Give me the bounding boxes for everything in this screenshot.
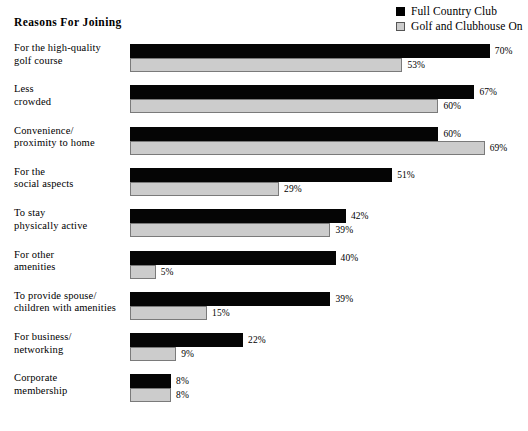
bar-light[interactable]: [130, 347, 176, 361]
legend-swatch-dark-icon: [396, 7, 405, 16]
bar-light[interactable]: [130, 99, 438, 113]
bar-value-label: 22%: [248, 334, 266, 346]
bar-light[interactable]: [130, 223, 330, 237]
bar-value-label: 8%: [176, 389, 189, 401]
category-label-line: children with amenities: [14, 302, 130, 315]
legend-swatch-light-icon: [396, 22, 405, 31]
bar-group: For thesocial aspects51%29%: [0, 164, 528, 198]
category-label: For thesocial aspects: [14, 166, 130, 191]
bar-value-label: 5%: [161, 266, 174, 278]
bar-dark[interactable]: [130, 374, 171, 388]
legend-item-full-country-club: Full Country Club: [396, 4, 528, 19]
category-label-line: proximity to home: [14, 137, 130, 150]
category-label: Corporatemembership: [14, 372, 130, 397]
category-label-line: For the: [14, 166, 130, 179]
bar-value-label: 15%: [212, 307, 230, 319]
category-label: Convenience/proximity to home: [14, 125, 130, 150]
category-label-line: Convenience/: [14, 125, 130, 138]
bar-value-label: 39%: [335, 224, 353, 236]
bar-value-label: 70%: [495, 45, 513, 57]
chart-legend: Full Country Club Golf and Clubhouse On: [396, 4, 528, 34]
category-label-line: networking: [14, 344, 130, 357]
bar-dark[interactable]: [130, 44, 490, 58]
category-label-line: For business/: [14, 331, 130, 344]
bar-value-label: 8%: [176, 375, 189, 387]
category-label-line: Less: [14, 83, 130, 96]
bar-group: To provide spouse/children with amenitie…: [0, 288, 528, 322]
bar-light[interactable]: [130, 388, 171, 402]
bar-value-label: 67%: [479, 86, 497, 98]
category-label-line: To stay: [14, 207, 130, 220]
category-label-line: To provide spouse/: [14, 290, 130, 303]
bar-group: To stayphysically active42%39%: [0, 205, 528, 239]
legend-label: Full Country Club: [411, 5, 497, 18]
bar-group: For otheramenities40%5%: [0, 247, 528, 281]
category-label-line: For the high-quality: [14, 42, 130, 55]
bar-group: For the high-qualitygolf course70%53%: [0, 40, 528, 74]
bar-dark[interactable]: [130, 127, 438, 141]
category-label: To stayphysically active: [14, 207, 130, 232]
category-label-line: social aspects: [14, 178, 130, 191]
bar-light[interactable]: [130, 58, 402, 72]
bar-dark[interactable]: [130, 168, 392, 182]
category-label-line: Corporate: [14, 372, 130, 385]
bar-light[interactable]: [130, 265, 156, 279]
bar-light[interactable]: [130, 306, 207, 320]
category-label: To provide spouse/children with amenitie…: [14, 290, 130, 315]
bar-value-label: 9%: [181, 348, 194, 360]
legend-label: Golf and Clubhouse On: [411, 20, 523, 33]
bar-value-label: 39%: [335, 293, 353, 305]
bar-value-label: 60%: [443, 128, 461, 140]
category-label: For otheramenities: [14, 249, 130, 274]
category-label: Lesscrowded: [14, 83, 130, 108]
bar-dark[interactable]: [130, 292, 330, 306]
category-label-line: amenities: [14, 261, 130, 274]
bar-value-label: 40%: [341, 252, 359, 264]
bar-value-label: 51%: [397, 169, 415, 181]
chart-title: Reasons For Joining: [14, 16, 122, 28]
plot-area: For the high-qualitygolf course70%53%Les…: [0, 40, 528, 431]
bar-light[interactable]: [130, 141, 485, 155]
bar-light[interactable]: [130, 182, 279, 196]
bar-group: Corporatemembership8%8%: [0, 370, 528, 404]
category-label: For the high-qualitygolf course: [14, 42, 130, 67]
bar-value-label: 60%: [443, 100, 461, 112]
category-label-line: For other: [14, 249, 130, 262]
bar-value-label: 53%: [407, 59, 425, 71]
category-label-line: membership: [14, 385, 130, 398]
legend-item-golf-and-clubhouse-only: Golf and Clubhouse On: [396, 19, 528, 34]
bar-dark[interactable]: [130, 85, 474, 99]
bar-value-label: 29%: [284, 183, 302, 195]
bar-group: Convenience/proximity to home60%69%: [0, 123, 528, 157]
category-label-line: physically active: [14, 220, 130, 233]
category-label-line: crowded: [14, 96, 130, 109]
bar-dark[interactable]: [130, 251, 336, 265]
bar-group: For business/networking22%9%: [0, 329, 528, 363]
bar-value-label: 69%: [490, 142, 508, 154]
bar-chart: Full Country Club Golf and Clubhouse On …: [0, 0, 528, 431]
bar-group: Lesscrowded67%60%: [0, 81, 528, 115]
bar-dark[interactable]: [130, 333, 243, 347]
category-label-line: golf course: [14, 55, 130, 68]
bar-value-label: 42%: [351, 210, 369, 222]
bar-dark[interactable]: [130, 209, 346, 223]
category-label: For business/networking: [14, 331, 130, 356]
